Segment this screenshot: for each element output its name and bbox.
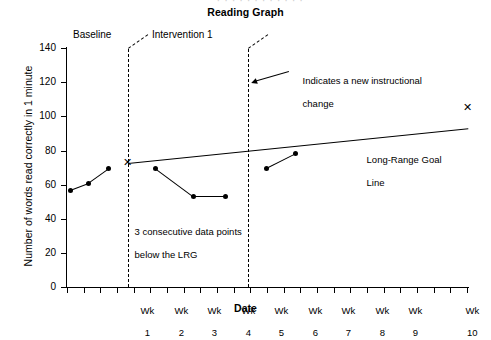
- x-tick-label-wk7-line2: 7: [346, 327, 351, 338]
- x-tick: [134, 288, 135, 293]
- annotation-instructional-change-arrow: [254, 71, 289, 82]
- annotation-three-points-below-lrg-line1: 3 consecutive data points: [135, 226, 242, 237]
- data-point: [68, 188, 73, 193]
- x-tick: [184, 288, 185, 293]
- annotation-instructional-change: Indicates a new instructional change: [292, 63, 467, 121]
- data-point: [293, 151, 298, 156]
- y-tick-100: [61, 116, 67, 117]
- annotation-three-points-below-lrg-line2: below the LRG: [135, 249, 198, 260]
- x-tick-label-wk2-line2: 2: [179, 327, 184, 338]
- phase-1-leader-line: [128, 34, 148, 49]
- x-tick: [467, 288, 468, 293]
- x-tick: [400, 288, 401, 293]
- y-tick-20: [61, 253, 67, 254]
- intervention1-segment-1: [154, 168, 193, 197]
- phase-2-leader-line: [248, 34, 268, 49]
- x-tick: [67, 288, 68, 293]
- x-tick-label-wk6: Wk 6: [293, 294, 327, 340]
- x-tick-label-wk4-line2: 4: [246, 327, 251, 338]
- x-tick: [417, 288, 418, 293]
- x-tick: [384, 288, 385, 293]
- data-point: [106, 166, 111, 171]
- x-tick-label-wk10: Wk 10: [450, 294, 484, 340]
- annotation-three-points-below-lrg: 3 consecutive data points below the LRG: [124, 214, 289, 272]
- x-tick: [434, 288, 435, 293]
- x-tick-label-wk1-line2: 1: [145, 327, 150, 338]
- y-tick-80: [61, 151, 67, 152]
- intervention2-segment-1: [266, 154, 295, 169]
- x-tick-label-wk3-line2: 3: [212, 327, 217, 338]
- x-tick-label-wk9: Wk 9: [393, 294, 427, 340]
- annotation-instructional-change-line1: Indicates a new instructional: [303, 75, 422, 86]
- y-tick-140: [61, 48, 67, 49]
- data-point: [264, 166, 269, 171]
- annotation-goal-line-label-line1: Long-Range Goal: [367, 154, 442, 165]
- x-tick: [450, 288, 451, 293]
- x-tick-label-wk8: Wk 8: [360, 294, 394, 340]
- x-tick: [234, 288, 235, 293]
- phase-label-baseline: Baseline: [73, 29, 111, 40]
- x-tick-label-wk2: Wk 2: [159, 294, 193, 340]
- x-tick: [250, 288, 251, 293]
- x-tick: [84, 288, 85, 293]
- y-tick-120: [61, 82, 67, 83]
- data-point: [86, 181, 91, 186]
- intervention1-segment-2: [193, 196, 225, 197]
- x-tick: [267, 288, 268, 293]
- phase-label-intervention-1: Intervention 1: [152, 29, 213, 40]
- y-axis-line: [66, 47, 67, 288]
- x-tick-label-wk1: Wk 1: [125, 294, 159, 340]
- x-tick: [317, 288, 318, 293]
- x-tick-label-wk5: Wk 5: [259, 294, 293, 340]
- annotation-goal-line-label: Long-Range Goal Line: [356, 142, 466, 200]
- data-point: [191, 194, 196, 199]
- x-tick: [200, 288, 201, 293]
- x-tick-label-wk6-line2: 6: [313, 327, 318, 338]
- x-tick-label-wk9-line2: 9: [413, 327, 418, 338]
- data-point: [223, 194, 228, 199]
- x-tick-label-wk4: Wk 4: [226, 294, 260, 340]
- x-tick-label-wk3: Wk 3: [192, 294, 226, 340]
- x-tick: [367, 288, 368, 293]
- x-tick: [117, 288, 118, 293]
- y-axis-title: Number of words read correctly in 1 minu…: [22, 41, 34, 291]
- x-tick: [334, 288, 335, 293]
- x-tick: [100, 288, 101, 293]
- x-tick-label-wk7: Wk 7: [326, 294, 360, 340]
- x-tick: [350, 288, 351, 293]
- annotation-instructional-change-line2: change: [303, 98, 334, 109]
- data-point: [153, 166, 158, 171]
- top-edge-artifact-text: · · · · · · · · · · · ·: [95, 0, 425, 4]
- chart-title: Reading Graph: [0, 6, 491, 18]
- x-tick: [217, 288, 218, 293]
- x-tick: [284, 288, 285, 293]
- x-tick-label-wk10-line2: 10: [467, 327, 478, 338]
- x-tick-label-wk8-line2: 8: [380, 327, 385, 338]
- annotation-goal-line-label-line2: Line: [367, 177, 385, 188]
- y-tick-40: [61, 219, 67, 220]
- x-tick: [300, 288, 301, 293]
- baseline-segment-2: [88, 169, 109, 184]
- x-tick-label-wk5-line2: 5: [279, 327, 284, 338]
- x-axis-title: Date: [0, 302, 491, 314]
- x-tick: [150, 288, 151, 293]
- x-tick: [167, 288, 168, 293]
- y-tick-60: [61, 185, 67, 186]
